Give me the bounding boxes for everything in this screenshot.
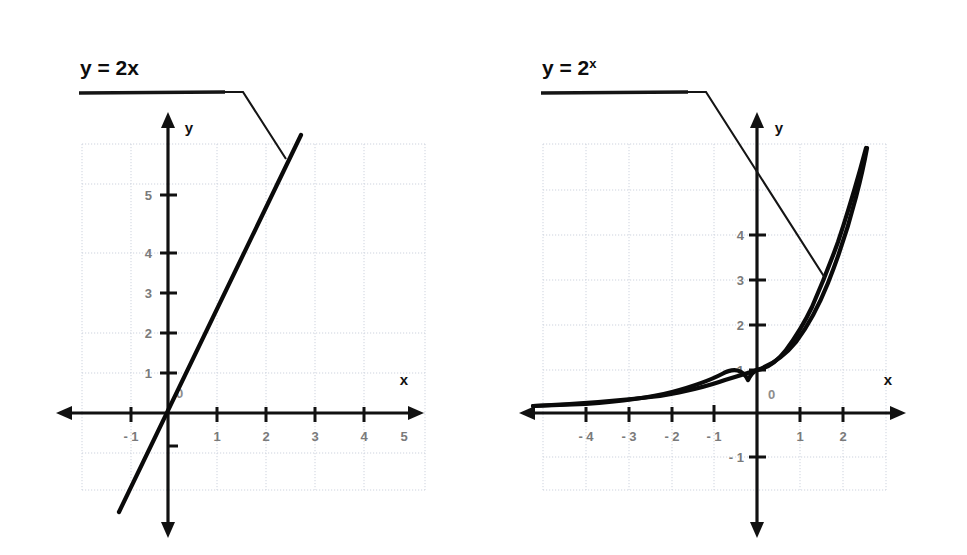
linear-y-tick-labels: 1 2 3 4 5 — [145, 188, 153, 381]
figure-exponential: - 4 - 3 - 2 - 1 1 2 - 1 1 2 3 4 0 x y — [490, 0, 967, 555]
y-tick-label: 3 — [145, 286, 152, 301]
x-tick-label: 4 — [360, 429, 368, 444]
exponential-graph-svg: - 4 - 3 - 2 - 1 1 2 - 1 1 2 3 4 0 x y — [490, 0, 967, 555]
function-label: y = 2x — [542, 56, 597, 79]
y-tick-label: 5 — [145, 188, 152, 203]
linear-x-axis — [56, 406, 424, 420]
y-tick-label: 2 — [737, 318, 744, 333]
y-axis-name: y — [185, 119, 194, 136]
linear-x-tick-labels: - 1 1 2 3 4 5 — [123, 429, 407, 444]
y-tick-label: 4 — [145, 246, 153, 261]
function-label: y = 2x — [80, 56, 139, 79]
x-tick-label: - 2 — [664, 429, 679, 444]
y-tick-label: - 1 — [729, 450, 744, 465]
x-tick-label: 3 — [311, 429, 318, 444]
x-tick-label: 2 — [839, 429, 846, 444]
x-tick-label: 1 — [796, 429, 803, 444]
exponential-function-curve — [533, 148, 866, 406]
y-axis-name: y — [775, 119, 784, 136]
x-tick-label: - 4 — [578, 429, 594, 444]
exponential-y-tick-labels: - 1 1 2 3 4 — [729, 228, 745, 465]
origin-label: 0 — [768, 387, 775, 402]
exponential-x-tick-labels: - 4 - 3 - 2 - 1 1 2 — [578, 429, 846, 444]
exponential-callout: y = 2x — [541, 56, 825, 278]
x-axis-name: x — [400, 371, 409, 388]
x-tick-label: - 3 — [621, 429, 636, 444]
figure-stage: - 1 1 2 3 4 5 1 2 3 4 5 0 x y — [0, 0, 967, 555]
linear-y-axis — [161, 112, 175, 538]
y-tick-label: 3 — [737, 273, 744, 288]
x-axis-name: x — [884, 371, 893, 388]
x-tick-label: - 1 — [123, 429, 138, 444]
x-tick-label: 5 — [400, 429, 407, 444]
y-tick-label: 1 — [145, 366, 152, 381]
y-tick-label: 4 — [737, 228, 745, 243]
x-tick-label: 1 — [213, 429, 220, 444]
linear-graph-svg: - 1 1 2 3 4 5 1 2 3 4 5 0 x y — [0, 0, 490, 555]
x-tick-label: 2 — [262, 429, 269, 444]
x-tick-label: - 1 — [706, 429, 721, 444]
figure-linear: - 1 1 2 3 4 5 1 2 3 4 5 0 x y — [0, 0, 490, 555]
y-tick-label: 2 — [145, 326, 152, 341]
exponential-function-curve-stroke — [533, 148, 867, 406]
